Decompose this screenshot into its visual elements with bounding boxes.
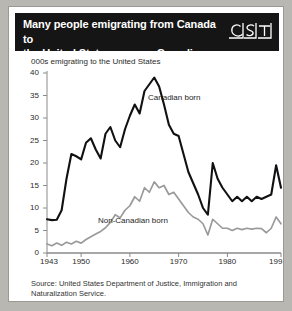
y-axis-tick-label: 35: [23, 91, 39, 100]
x-axis-tick-label: 1991: [263, 257, 284, 266]
x-axis-tick-label: 1980: [212, 257, 242, 266]
y-axis-tick-label: 10: [23, 203, 39, 212]
y-axis-tick-label: 5: [23, 226, 39, 235]
figure-panel: Many people emigrating from Canada to th…: [8, 6, 284, 302]
y-axis-tick-label: 15: [23, 181, 39, 190]
source-note: Source: United States Department of Just…: [31, 279, 269, 299]
x-axis-tick-label: 1943: [34, 257, 64, 266]
series-label-canadian-born: Canadian born: [148, 93, 200, 102]
x-axis-tick-label: 1970: [164, 257, 194, 266]
y-axis-tick-label: 30: [23, 113, 39, 122]
series-label-non-canadian-born: Non-Canadian born: [98, 216, 168, 225]
x-axis-tick-label: 1950: [66, 257, 96, 266]
y-axis-tick-label: 40: [23, 68, 39, 77]
y-axis-tick-label: 25: [23, 136, 39, 145]
y-axis-tick-label: 20: [23, 158, 39, 167]
x-axis-tick-label: 1960: [115, 257, 145, 266]
y-axis-tick-label: 0: [23, 248, 39, 257]
